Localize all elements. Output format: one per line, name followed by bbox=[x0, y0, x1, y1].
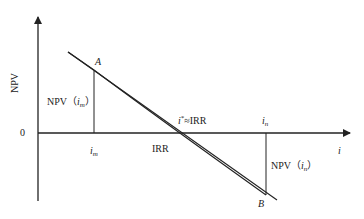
y-axis-label: NPV bbox=[10, 73, 20, 93]
tick-im-label: im bbox=[90, 146, 98, 159]
npv-im-label: NPV（im） bbox=[47, 97, 95, 110]
origin-label: 0 bbox=[20, 128, 25, 138]
npv-curve bbox=[68, 52, 266, 195]
npv-im-prefix: NPV（ bbox=[47, 96, 77, 107]
tick-im-sub: m bbox=[93, 150, 98, 158]
npv-in-suffix: ） bbox=[307, 160, 317, 171]
istar-rest: ≈IRR bbox=[184, 115, 206, 126]
istar-approx-irr-label: i*≈IRR bbox=[178, 113, 206, 126]
x-axis-label: i bbox=[338, 146, 341, 156]
npv-im-suffix: ） bbox=[85, 96, 95, 107]
point-a-label: A bbox=[95, 57, 101, 67]
tick-in-sub: n bbox=[265, 120, 269, 128]
tick-in-label: in bbox=[262, 116, 268, 129]
irr-label: IRR bbox=[152, 144, 169, 154]
npv-in-prefix: NPV（ bbox=[271, 160, 301, 171]
point-b-label: B bbox=[258, 199, 264, 209]
npv-in-label: NPV（in） bbox=[271, 161, 317, 174]
